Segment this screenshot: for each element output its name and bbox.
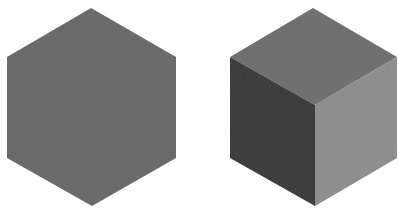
flat-hexagon xyxy=(7,8,176,206)
hexagon-shape xyxy=(7,8,176,206)
figure-canvas xyxy=(0,0,399,216)
shaded-cube xyxy=(230,8,397,206)
